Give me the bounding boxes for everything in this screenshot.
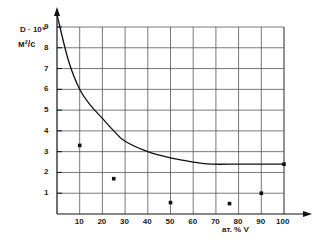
- data-point: [112, 177, 116, 181]
- x-axis-arrow-icon: [303, 211, 312, 217]
- x-tick-label: 80: [234, 217, 243, 226]
- y-tick-label: 9: [44, 22, 48, 31]
- y-axis-unit: м²/с: [18, 39, 35, 49]
- y-tick-label: 1: [44, 188, 48, 197]
- y-axis-label-text: D · 10⁹: [20, 25, 46, 34]
- data-points: [78, 144, 286, 206]
- y-tick-label: 2: [44, 167, 48, 176]
- x-tick-label: 10: [75, 217, 84, 226]
- data-point: [260, 191, 264, 195]
- x-tick-label: 70: [211, 217, 220, 226]
- y-axis-label: D · 10⁹: [20, 25, 46, 34]
- x-tick-label: 50: [166, 217, 175, 226]
- diffusion-chart: [0, 0, 332, 247]
- x-tick-label: 90: [256, 217, 265, 226]
- x-tick-label: 60: [188, 217, 197, 226]
- data-point: [169, 201, 173, 205]
- y-tick-label: 7: [44, 64, 48, 73]
- y-axis-unit-text: м²/с: [18, 39, 35, 49]
- x-axis-label: ат. % V: [222, 225, 249, 234]
- y-tick-label: 5: [44, 105, 48, 114]
- data-point: [282, 162, 286, 166]
- axes: [54, 7, 312, 217]
- y-tick-label: 4: [44, 126, 48, 135]
- y-tick-label: 3: [44, 147, 48, 156]
- x-tick-label: 20: [97, 217, 106, 226]
- y-tick-label: 6: [44, 84, 48, 93]
- data-point: [78, 144, 82, 148]
- grid: [57, 27, 284, 214]
- x-tick-label: 40: [143, 217, 152, 226]
- data-point: [228, 202, 232, 206]
- y-tick-label: 8: [44, 43, 48, 52]
- x-tick-label: 100: [276, 217, 289, 226]
- x-tick-label: 30: [120, 217, 129, 226]
- x-axis-label-text: ат. % V: [222, 225, 249, 234]
